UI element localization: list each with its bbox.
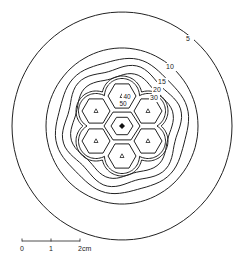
source-cell (82, 129, 110, 153)
contour-label-20: 20 (153, 86, 161, 93)
scale-tick-label: 0 (20, 245, 24, 252)
source-cell (134, 129, 162, 153)
scale-bar: 012cm (20, 239, 91, 253)
triangle-source-icon (94, 139, 98, 143)
contour-label-40: 40 (123, 93, 131, 100)
scale-tick-label: 2cm (78, 245, 91, 252)
triangle-source-icon (146, 109, 150, 113)
isodose-diagram: 5101520304050 012cm (0, 0, 244, 269)
triangle-source-icon (146, 139, 150, 143)
center-diamond-icon (119, 123, 125, 129)
contour-labels: 5101520304050 (118, 35, 194, 107)
triangle-source-icon (94, 109, 98, 113)
triangle-source-icon (120, 154, 124, 158)
contour-label-15: 15 (158, 78, 166, 85)
contour-label-10: 10 (166, 63, 174, 70)
contour-label-5: 5 (186, 35, 190, 42)
contour-label-50: 50 (119, 100, 127, 107)
scale-tick-label: 1 (49, 245, 53, 252)
contour-plot: 5101520304050 012cm (0, 0, 244, 269)
source-cell (134, 99, 162, 123)
source-cell (108, 144, 136, 168)
contour-label-30: 30 (150, 94, 158, 101)
source-cell (82, 99, 110, 123)
